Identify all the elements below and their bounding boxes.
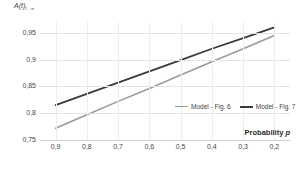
y-axis-tick-label: 0,9 bbox=[8, 56, 36, 64]
legend-swatch-line-icon bbox=[240, 106, 253, 108]
x-axis-tick-label: 0,9 bbox=[41, 143, 71, 150]
x-axis-title-text: Probability bbox=[245, 128, 284, 137]
legend-swatch-line-icon bbox=[175, 106, 188, 107]
gridline-horizontal bbox=[40, 33, 290, 34]
legend-label: Model - Fig. 6 bbox=[191, 103, 231, 110]
gridline-vertical bbox=[243, 22, 244, 140]
x-axis-title-variable: p bbox=[285, 128, 290, 137]
y-axis-tick-label: 0,75 bbox=[8, 136, 36, 144]
legend-item[interactable]: Model - Fig. 7 bbox=[240, 103, 296, 110]
gridline-horizontal bbox=[40, 86, 290, 87]
x-axis-tick-label: 0,8 bbox=[72, 143, 102, 150]
gridline-vertical bbox=[212, 22, 213, 140]
legend-label: Model - Fig. 7 bbox=[256, 103, 296, 110]
y-axis-tick-labels: 0,950,90,850,80,75 bbox=[6, 0, 36, 179]
y-axis-tick-label: 0,95 bbox=[8, 29, 36, 37]
gridline-horizontal bbox=[40, 113, 290, 114]
x-axis-tick-labels: 0,90,80,70,60,50,40,30,2 bbox=[40, 143, 290, 157]
gridline-vertical bbox=[274, 22, 275, 140]
series-line bbox=[56, 27, 275, 105]
x-axis-tick-label: 0,6 bbox=[134, 143, 164, 150]
x-axis-line bbox=[40, 140, 290, 141]
gridline-vertical bbox=[56, 22, 57, 140]
gridline-vertical bbox=[181, 22, 182, 140]
chart-legend: Model - Fig. 6Model - Fig. 7 bbox=[175, 103, 296, 110]
line-chart: A(t)t→∞ 0,950,90,850,80,75 0,90,80,70,60… bbox=[0, 0, 298, 179]
y-axis-tick-label: 0,8 bbox=[8, 109, 36, 117]
x-axis-title: Probability p bbox=[245, 128, 290, 137]
plot-area bbox=[40, 22, 290, 140]
x-axis-tick-label: 0,4 bbox=[197, 143, 227, 150]
x-axis-tick-label: 0,3 bbox=[228, 143, 258, 150]
legend-item[interactable]: Model - Fig. 6 bbox=[175, 103, 231, 110]
gridline-vertical bbox=[149, 22, 150, 140]
gridline-horizontal bbox=[40, 60, 290, 61]
x-axis-tick-label: 0,2 bbox=[259, 143, 289, 150]
y-axis-tick-label: 0,85 bbox=[8, 82, 36, 90]
series-line bbox=[56, 35, 275, 128]
gridline-vertical bbox=[118, 22, 119, 140]
series-lines bbox=[40, 22, 290, 140]
x-axis-tick-label: 0,7 bbox=[103, 143, 133, 150]
x-axis-tick-label: 0,5 bbox=[166, 143, 196, 150]
gridline-vertical bbox=[87, 22, 88, 140]
